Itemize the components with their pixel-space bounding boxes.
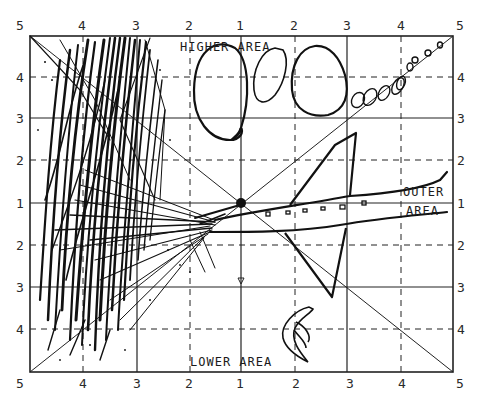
bottom-tick: 2 [185,376,193,391]
bottom-tick: 4 [398,376,406,391]
higher-area-label: HIGHER AREA [180,40,270,54]
right-tick: 2 [457,153,465,168]
top-tick: 4 [397,18,405,33]
bottom-tick: 4 [79,376,87,391]
right-tick: 2 [457,238,465,253]
loop-1 [194,45,247,140]
top-tick: 2 [290,18,298,33]
top-tick-labels: 5 4 3 2 1 2 3 4 5 [16,18,464,33]
diagonal-loop-chain [349,42,443,110]
bottom-tick: 3 [346,376,354,391]
loop-2 [254,48,287,102]
bottom-tick: 5 [456,376,464,391]
bottom-tick: 5 [16,376,24,391]
crescent-shape [283,307,313,362]
outer-label: OUTER [403,185,444,199]
left-tick: 4 [16,70,24,85]
bottom-tick: 2 [292,376,300,391]
right-tick: 3 [457,280,465,295]
right-tick: 4 [457,70,465,85]
left-tick: 3 [16,280,24,295]
left-tick: 2 [16,153,24,168]
top-tick: 5 [16,18,24,33]
top-tick: 2 [185,18,193,33]
bottom-tick: 1 [236,376,244,391]
field-diagram: 5 4 3 2 1 2 3 4 5 5 4 3 2 1 2 3 4 5 4 3 … [0,0,480,405]
left-tick: 4 [16,322,24,337]
top-tick: 4 [78,18,86,33]
top-tick: 3 [343,18,351,33]
left-tick: 3 [16,111,24,126]
loop-3 [292,46,347,116]
bottom-tick: 3 [133,376,141,391]
higher-area-loops [194,45,347,140]
top-tick: 5 [456,18,464,33]
left-tick-labels: 4 3 2 1 2 3 4 [16,70,24,337]
bottom-tick-labels: 5 4 3 2 1 2 3 4 5 [16,376,464,391]
right-tick: 4 [457,322,465,337]
left-tick: 2 [16,238,24,253]
right-tick: 1 [457,196,465,211]
top-tick: 3 [132,18,140,33]
right-tick: 3 [457,111,465,126]
center-dot [236,198,246,208]
area-label: AREA [406,204,439,218]
lower-area-label: LOWER AREA [190,355,272,369]
left-tick: 1 [16,196,24,211]
kite-upper [290,133,356,205]
kite-outline [285,133,356,297]
top-tick: 1 [236,18,244,33]
scribble-cluster [30,36,240,361]
right-tick-labels: 4 3 2 1 2 3 4 [457,70,465,337]
